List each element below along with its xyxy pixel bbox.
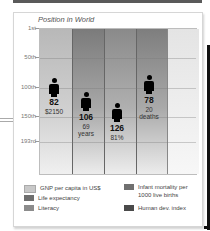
- rank-value: 82: [34, 98, 74, 107]
- legend-swatch: [24, 195, 34, 201]
- legend-item-literacy: Literacy: [24, 204, 59, 212]
- page-edge-foot: [204, 226, 210, 229]
- person-icon: [112, 103, 122, 122]
- legend-label: Life expectancy: [38, 194, 80, 202]
- rank-detail: deaths: [129, 113, 169, 120]
- legend-label: Human dev. index: [138, 204, 186, 212]
- gridline: [40, 58, 196, 59]
- y-tick-label: 193rd: [21, 138, 36, 144]
- chart-title: Position in World: [38, 15, 94, 24]
- rank-detail: 20: [129, 106, 169, 113]
- legend-swatch: [24, 205, 34, 211]
- rank-value: 106: [66, 113, 106, 122]
- rank-detail: 81%: [97, 134, 137, 141]
- top-border-bar: [13, 0, 202, 3]
- legend-swatch: [124, 184, 134, 190]
- legend-swatch: [24, 185, 36, 193]
- gridline: [40, 142, 196, 143]
- gridline: [40, 88, 196, 89]
- page-edge-bar: [207, 45, 210, 230]
- legend-item-infant-mortality: Infant mortality per 1000 live births: [124, 183, 188, 199]
- page-rule: [0, 121, 13, 122]
- legend-item-human-dev-index: Human dev. index: [124, 204, 186, 212]
- legend-label: Literacy: [38, 204, 59, 212]
- legend-label: GNP per capita in US$: [40, 184, 101, 192]
- legend-swatch: [124, 205, 134, 211]
- person-icon: [144, 75, 154, 94]
- person-icon: [81, 92, 91, 111]
- legend-label: Infant mortality per: [138, 183, 188, 191]
- rank-value: 126: [97, 124, 137, 133]
- y-tick-label: 100th: [21, 84, 36, 90]
- rank-value: 78: [129, 96, 169, 105]
- legend-label: 1000 live births: [138, 191, 188, 199]
- legend-item-gnp: GNP per capita in US$: [24, 184, 101, 193]
- page-rule: [0, 118, 13, 119]
- legend-item-life-expectancy: Life expectancy: [24, 194, 80, 202]
- column-human-dev-index: [167, 29, 199, 174]
- person-icon: [49, 78, 59, 97]
